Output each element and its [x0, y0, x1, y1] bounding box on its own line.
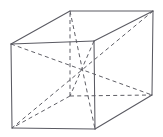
cube-diagram: [0, 0, 163, 137]
cube-figure: [0, 0, 163, 137]
